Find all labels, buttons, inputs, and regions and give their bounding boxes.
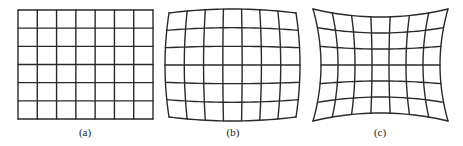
grid-panel-undistorted bbox=[18, 10, 153, 119]
grid-line-vertical bbox=[313, 9, 321, 121]
grid-line-horizontal bbox=[169, 117, 296, 121]
grid-line-horizontal bbox=[167, 100, 298, 103]
caption-a: (a) bbox=[65, 126, 105, 138]
grid-line-horizontal bbox=[165, 46, 299, 47]
grid-panel-pincushion bbox=[313, 9, 448, 121]
grid-line-horizontal bbox=[169, 9, 296, 13]
grid-panel-barrel bbox=[165, 9, 300, 121]
caption-b: (b) bbox=[213, 126, 253, 138]
distortion-grids-canvas bbox=[0, 0, 463, 146]
grid-line-horizontal bbox=[167, 28, 298, 31]
grid-line-horizontal bbox=[165, 82, 299, 83]
caption-c: (c) bbox=[360, 126, 400, 138]
grid-line-vertical bbox=[440, 9, 448, 121]
grid-line-horizontal bbox=[320, 81, 441, 84]
grid-line-horizontal bbox=[320, 46, 441, 49]
